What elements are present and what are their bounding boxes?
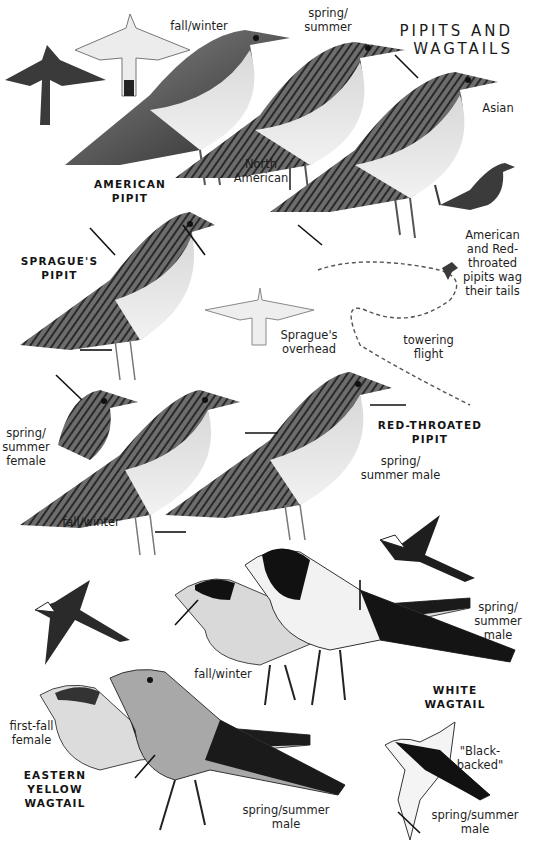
pipit-flight-dark-icon [5,45,106,125]
label-american-spring-summer: spring/ summer [298,6,358,34]
species-name-eastern-yellow-wagtail: EASTERN YELLOW WAGTAIL [20,768,90,810]
label-red-throated-spring-female: spring/ summer female [2,426,50,468]
red-throated-fall-icon [20,390,240,555]
label-white-spring-summer-male: spring/ summer male [468,600,528,642]
label-black-backed-spring-male: spring/summer male [425,808,525,836]
species-name-red-throated-pipit: RED-THROATED PIPIT [370,418,490,446]
label-white-fall-winter: fall/winter [188,667,258,681]
label-american-fall-winter: fall/winter [160,19,238,33]
label-red-throated-fall-winter: fall/winter [56,515,126,529]
label-asian: Asian [478,101,518,115]
white-wagtail-flight-icon [380,515,475,582]
label-spragues-overhead: Sprague's overhead [274,328,344,356]
species-name-spragues-pipit: SPRAGUE'S PIPIT [12,254,107,282]
species-name-american-pipit: AMERICAN PIPIT [80,177,180,205]
wagging-pipit-silhouette-icon [435,163,515,210]
plate-title: PIPITS AND WAGTAILS [395,22,513,58]
white-wagtail-small-flight-icon [35,580,130,665]
label-yellow-spring-male: spring/summer male [236,803,336,831]
spragues-pipit-icon [20,212,215,380]
label-red-throated-spring-male: spring/ summer male [358,454,443,482]
species-name-white-wagtail: WHITE WAGTAIL [420,683,490,711]
label-north-american: North American [226,157,296,185]
label-towering-flight: towering flight [396,333,461,361]
field-guide-plate: PIPITS AND WAGTAILS fall/winter spring/ … [0,0,533,861]
note-tail-wagging: American and Red- throated pipits wag th… [455,228,530,298]
label-black-backed: "Black- backed" [450,744,510,772]
label-yellow-first-fall-female: first-fall female [4,719,59,747]
